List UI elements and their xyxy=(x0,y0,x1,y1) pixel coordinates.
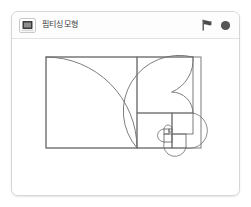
spiral-arc-inner-5 xyxy=(186,113,207,148)
fibonacci-square-7 xyxy=(164,129,169,134)
fibonacci-square-4 xyxy=(172,113,193,134)
spiral-arc-3 xyxy=(172,57,193,92)
fibonacci-square-2 xyxy=(137,57,193,113)
fibonacci-square-6 xyxy=(164,134,172,142)
spiral-arc-1 xyxy=(46,57,137,148)
project-title: 핌티싱모형 xyxy=(42,20,201,30)
project-thumbnail-icon xyxy=(19,18,36,33)
fibonacci-square-1 xyxy=(46,57,137,148)
project-window: 핌티싱모형 xyxy=(11,11,240,196)
fibonacci-square-8 xyxy=(169,129,172,132)
spiral-arc-4 xyxy=(172,92,193,113)
spiral-arc-inner-7 xyxy=(158,129,165,142)
stage-controls xyxy=(201,19,231,31)
green-flag-button[interactable] xyxy=(201,19,213,31)
project-stage[interactable] xyxy=(12,39,239,195)
app-root: 핌티싱모형 xyxy=(0,0,251,207)
stop-button[interactable] xyxy=(220,20,231,31)
fibonacci-square-3 xyxy=(137,113,172,148)
spiral-arc-inner-6 xyxy=(164,142,186,156)
spiral-arc-inner-8 xyxy=(164,125,172,129)
fibonacci-golden-spiral xyxy=(12,39,239,195)
fibonacci-square-5 xyxy=(172,134,186,148)
project-header: 핌티싱모형 xyxy=(12,12,239,39)
